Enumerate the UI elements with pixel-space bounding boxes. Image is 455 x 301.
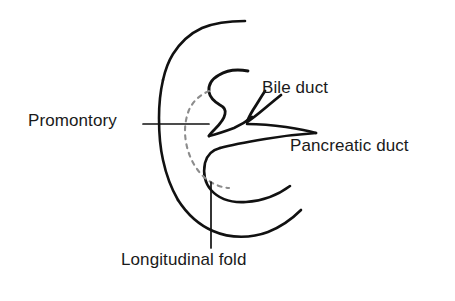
papilla-orifice: [209, 117, 252, 136]
label-promontory: Promontory: [28, 112, 117, 129]
papilla-outline: [209, 70, 248, 136]
label-longitudinal-fold: Longitudinal fold: [121, 251, 247, 268]
anatomical-figure: Promontory Bile duct Pancreatic duct Lon…: [0, 0, 455, 301]
duodenal-wall-left: [159, 80, 178, 200]
duodenal-wall-lower: [178, 200, 301, 237]
label-pancreatic-duct: Pancreatic duct: [290, 137, 409, 154]
bile-duct-wall-upper: [247, 95, 281, 122]
pancreatic-duct-channel: [247, 124, 316, 133]
duodenal-lumen-floor: [204, 148, 290, 202]
label-bile-duct: Bile duct: [262, 79, 328, 96]
